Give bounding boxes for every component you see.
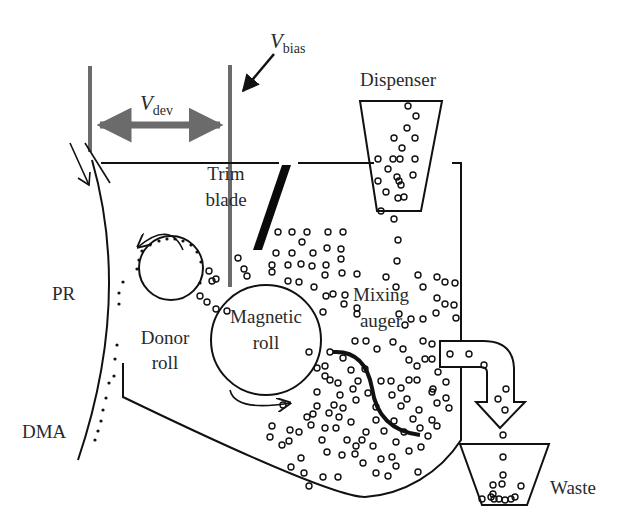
donor-roll-label: Donor roll [130, 327, 200, 374]
magnetic-roll-label: Magnetic roll [216, 306, 316, 354]
pr-label: PR [52, 283, 75, 305]
v-bias-label: Vbias [270, 30, 305, 60]
mixing-auger-label: Mixing auger [346, 284, 416, 332]
dma-label: DMA [22, 421, 66, 443]
trim-blade [253, 165, 291, 250]
development-system-diagram [0, 0, 638, 531]
waste-label: Waste [550, 477, 596, 499]
v-dev-label: Vdev [140, 92, 173, 122]
trim-blade-label: Trim blade [196, 163, 256, 211]
photoreceptor-drum-curve [78, 160, 109, 460]
dispenser-label: Dispenser [360, 69, 436, 91]
waste-bin [460, 444, 549, 505]
